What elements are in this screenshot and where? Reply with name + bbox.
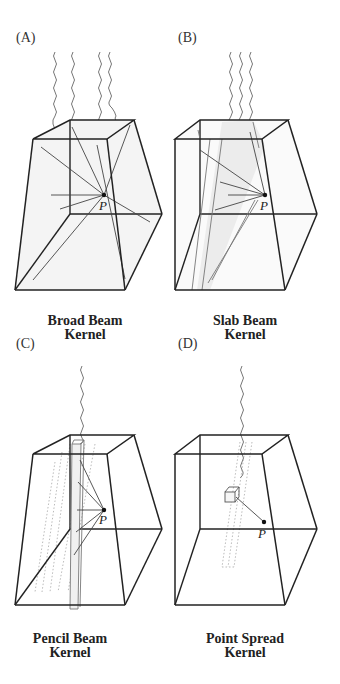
point-p-marker	[102, 193, 106, 197]
point-label-b: P	[260, 198, 268, 214]
caption-pencil-beam: Pencil Beam Kernel	[0, 632, 140, 660]
point-p-marker	[262, 520, 266, 524]
caption-line2: Kernel	[0, 646, 140, 660]
panel-c-pencil-beam: (C)	[0, 342, 170, 684]
panel-d-point-spread: (D) P	[170, 342, 340, 684]
panel-b-slab-beam: (B)	[170, 0, 340, 342]
slab-beam-diagram	[170, 0, 340, 342]
point-label-d: P	[258, 526, 266, 542]
caption-line1: Pencil Beam	[0, 632, 140, 646]
broad-beam-diagram	[0, 0, 170, 342]
caption-line1: Broad Beam	[10, 314, 160, 328]
wavy-incident-ray-icon	[240, 366, 244, 478]
caption-line2: Kernel	[170, 646, 320, 660]
point-label-a: P	[99, 198, 107, 214]
caption-line1: Point Spread	[170, 632, 320, 646]
point-label-c: P	[99, 512, 107, 528]
point-p-marker	[263, 193, 267, 197]
caption-point-spread: Point Spread Kernel	[170, 632, 320, 660]
voxel-cube-icon	[225, 487, 239, 502]
wavy-incident-ray-icon	[80, 366, 84, 444]
caption-line1: Slab Beam	[170, 314, 320, 328]
panel-a-broad-beam: (A)	[0, 0, 170, 342]
